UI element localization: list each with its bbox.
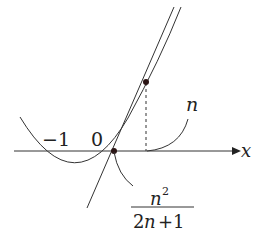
fraction-denominator-2: 2 bbox=[133, 211, 144, 232]
leader-fraction bbox=[114, 152, 133, 186]
label-minus-one: −1 bbox=[42, 128, 70, 150]
x-axis-label: x bbox=[241, 140, 251, 161]
function-graph-diagram: x −1 0 n n 2 2 n +1 bbox=[0, 0, 255, 236]
fraction-denominator-plus-one: +1 bbox=[158, 211, 185, 232]
fraction-denominator-n: n bbox=[144, 211, 156, 232]
fraction-numerator-exponent: 2 bbox=[162, 185, 169, 198]
label-n: n bbox=[186, 93, 198, 115]
label-zero: 0 bbox=[91, 128, 103, 150]
x-axis-arrow-icon bbox=[232, 147, 241, 155]
fraction-numerator: n bbox=[150, 188, 162, 209]
leader-n bbox=[147, 119, 188, 151]
tangent-point bbox=[143, 79, 149, 85]
tangent-line bbox=[87, 7, 174, 208]
